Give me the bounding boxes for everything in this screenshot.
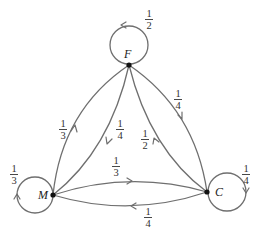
edge-C-F	[129, 65, 207, 192]
svg-text:1: 1	[117, 118, 122, 129]
node-label-C: C	[215, 185, 224, 199]
svg-text:4: 4	[145, 218, 151, 229]
svg-text:3: 3	[11, 175, 16, 186]
svg-text:1: 1	[60, 118, 65, 129]
label-edge-M-C: 1 3	[112, 155, 120, 178]
svg-text:1: 1	[145, 206, 150, 217]
node-M	[50, 192, 55, 197]
svg-text:2: 2	[142, 140, 147, 151]
svg-text:1: 1	[146, 8, 151, 19]
label-edge-C-F: 1 2	[141, 128, 149, 151]
node-label-F: F	[123, 47, 132, 61]
transition-diagram: F M C 1 2 1 3 1 4 1 3 1 4 1 4 1 2 1 3	[0, 0, 267, 244]
svg-text:4: 4	[117, 130, 123, 141]
node-C	[204, 189, 209, 194]
node-F	[126, 62, 131, 67]
label-edge-F-C: 1 4	[174, 88, 182, 111]
diagram-canvas: F M C 1 2 1 3 1 4 1 3 1 4 1 4 1 2 1 3	[0, 0, 267, 244]
svg-text:2: 2	[146, 20, 151, 31]
svg-text:1: 1	[113, 155, 118, 166]
label-loop-M: 1 3	[10, 163, 18, 186]
svg-text:1: 1	[175, 88, 180, 99]
edge-F-C	[129, 65, 207, 192]
edge-M-C	[53, 182, 207, 195]
label-loop-F: 1 2	[145, 8, 153, 31]
loop-C	[208, 173, 246, 211]
label-loop-C: 1 4	[242, 163, 250, 186]
label-edge-C-M: 1 4	[144, 206, 152, 229]
svg-text:1: 1	[142, 128, 147, 139]
label-edge-M-F: 1 3	[59, 118, 67, 141]
svg-text:3: 3	[60, 130, 65, 141]
svg-text:1: 1	[11, 163, 16, 174]
label-edge-F-M: 1 4	[116, 118, 124, 141]
node-label-M: M	[37, 188, 49, 202]
edge-F-M-arrow-icon	[106, 137, 112, 144]
svg-text:4: 4	[175, 100, 181, 111]
svg-text:1: 1	[243, 163, 248, 174]
edge-M-C-arrow-icon	[127, 178, 132, 184]
edge-C-M	[53, 192, 207, 206]
svg-text:3: 3	[113, 167, 118, 178]
svg-text:4: 4	[243, 175, 249, 186]
